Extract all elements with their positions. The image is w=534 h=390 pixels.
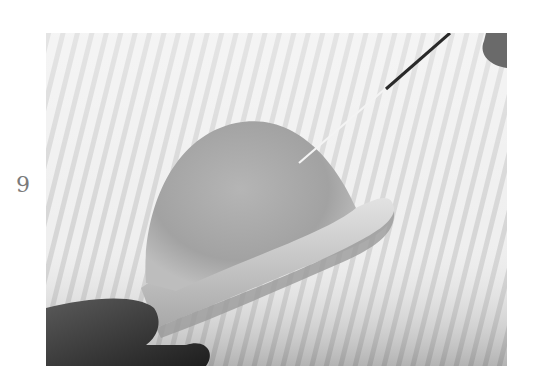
felting-photo (46, 33, 507, 366)
step-number: 9 (0, 174, 46, 196)
felted-hat-image (46, 33, 507, 366)
